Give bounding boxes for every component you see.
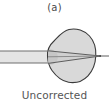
incoming-light-beam — [0, 51, 48, 63]
figure-caption: Uncorrected — [0, 88, 109, 102]
figure-panel-a: (a) Uncorrected — [0, 0, 109, 103]
focal-point-marker — [99, 55, 101, 57]
